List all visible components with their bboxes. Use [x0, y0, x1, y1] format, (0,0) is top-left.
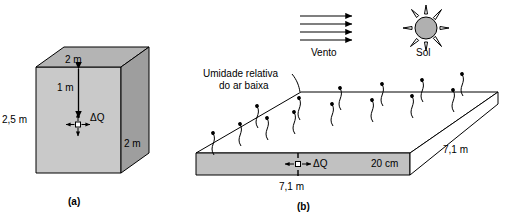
- cube-right-face: [121, 47, 149, 173]
- slab-flux-label: ΔQ: [313, 158, 327, 169]
- diagram-canvas: [0, 0, 512, 222]
- cube-flux-label: ΔQ: [90, 112, 104, 123]
- slab-width-label: 7,1 m: [279, 181, 304, 192]
- cube-dim-right-label: 2 m: [124, 138, 141, 149]
- cube-dim-left-label: 2,5 m: [2, 114, 27, 125]
- cube-dim-depth-label: 1 m: [57, 82, 74, 93]
- humidity-label-line1: Umidade relativa: [203, 68, 278, 79]
- humidity-leader: [292, 74, 300, 92]
- caption-a: (a): [68, 196, 80, 207]
- wind-arrows: [300, 16, 352, 40]
- wind-label: Vento: [311, 47, 337, 58]
- figure-root: 2 m 2,5 m 2 m 1 m ΔQ (a) Vento Sol Umida…: [0, 0, 512, 222]
- sun-icon: [403, 5, 449, 51]
- caption-b: (b): [297, 201, 310, 212]
- slab-solid: [196, 92, 498, 175]
- humidity-label-line2: do ar baixa: [219, 80, 268, 91]
- cube-solid: [36, 47, 149, 173]
- sun-label: Sol: [416, 47, 430, 58]
- slab-depth-label: 7,1 m: [443, 144, 468, 155]
- slab-thickness-label: 20 cm: [371, 158, 398, 169]
- cube-dim-top-label: 2 m: [65, 54, 82, 65]
